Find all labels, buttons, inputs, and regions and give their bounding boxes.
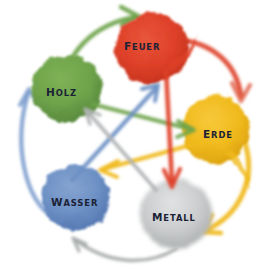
element-blob-feuer: [115, 13, 198, 83]
arrow-feuer-to-metall: [164, 70, 180, 187]
five-elements-diagram: FEUER HOLZ ERDE WASSER METALL: [0, 0, 267, 271]
arrow-erde-to-wasser: [100, 143, 198, 177]
element-blob-metall: [140, 179, 212, 249]
diagram-canvas: [0, 0, 267, 271]
